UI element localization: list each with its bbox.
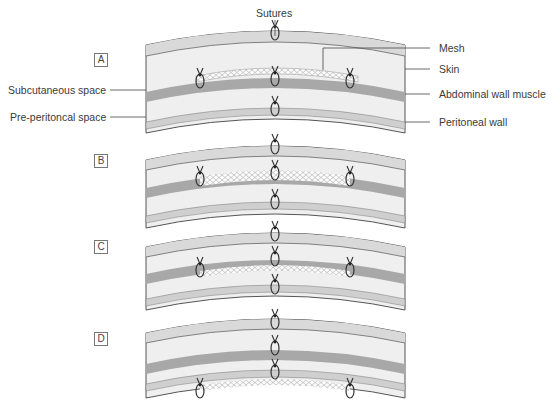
mesh-label: Mesh: [439, 42, 465, 54]
subcutaneous-space-label: Subcutaneous space: [8, 84, 106, 96]
panel-c: [146, 221, 405, 310]
panel-label-c: C: [94, 240, 108, 254]
panel-label-a: A: [94, 53, 108, 67]
panel-a: [146, 20, 405, 133]
pre-peritoneal-space-label: Pre-peritoncal space: [10, 111, 106, 123]
panel-d: [146, 309, 405, 398]
sutures-label: Sutures: [256, 7, 292, 19]
skin-label: Skin: [439, 63, 459, 75]
diagram-canvas: [0, 0, 560, 405]
panel-label-b: B: [94, 154, 108, 168]
panel-label-d: D: [94, 332, 108, 346]
peritoneal-wall-label: Peritoneal wall: [439, 116, 507, 128]
panel-b: [146, 134, 405, 228]
abdominal-wall-muscle-label: Abdominal wall muscle: [439, 88, 546, 100]
